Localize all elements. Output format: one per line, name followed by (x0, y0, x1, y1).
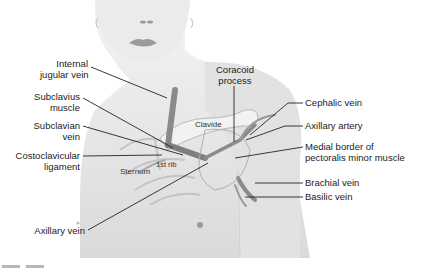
caption-stub (2, 265, 152, 268)
label-cephalic-vein: Cephalic vein (305, 97, 362, 108)
label-line: ligament (4, 161, 80, 172)
label-line: jugular vein (40, 69, 88, 80)
label-sternum: Sternum (120, 167, 150, 176)
label-line: muscle (30, 102, 80, 113)
label-line: process (214, 75, 256, 86)
label-line: Medial border of (305, 141, 405, 152)
label-line: vein (28, 131, 80, 142)
label-line: Brachial vein (305, 177, 359, 188)
anatomy-figure: Internal jugular vein Subclavius muscle … (0, 0, 427, 272)
label-basilic-vein: Basilic vein (305, 191, 353, 202)
label-medial-border-pectoralis-minor: Medial border of pectoralis minor muscle (305, 141, 405, 163)
label-line: Subclavian (28, 120, 80, 131)
label-line: Subclavius (30, 91, 80, 102)
label-internal-jugular-vein: Internal jugular vein (40, 58, 88, 80)
label-brachial-vein: Brachial vein (305, 177, 359, 188)
label-subclavian-vein: Subclavian vein (28, 120, 80, 142)
label-line: Coracoid (214, 64, 256, 75)
label-coracoid-process: Coracoid process (214, 64, 256, 86)
label-clavicle: Clavide (195, 120, 222, 129)
label-first-rib: 1st rib (156, 160, 176, 169)
label-costoclavicular-ligament: Costoclavicular ligament (4, 150, 80, 172)
label-line: pectoralis minor muscle (305, 152, 405, 163)
label-line: Basilic vein (305, 191, 353, 202)
label-line: Cephalic vein (305, 97, 362, 108)
label-axillary-vein: Axillary vein (20, 225, 85, 236)
label-line: Costoclavicular (4, 150, 80, 161)
label-axillary-artery: Axillary artery (305, 120, 363, 131)
label-subclavius-muscle: Subclavius muscle (30, 91, 80, 113)
label-line: Axillary vein (20, 225, 85, 236)
nipple (197, 222, 203, 228)
label-line: Internal (40, 58, 88, 69)
label-line: Axillary artery (305, 120, 363, 131)
